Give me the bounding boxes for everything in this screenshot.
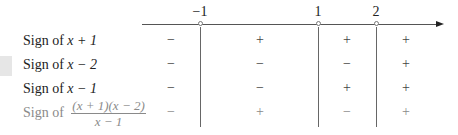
expr: x + 1 (67, 33, 97, 48)
divider-neg1 (200, 27, 201, 127)
divider-1 (318, 27, 319, 127)
axis-point-2 (374, 21, 379, 26)
side-tab (0, 56, 12, 76)
axis-point-1 (316, 21, 321, 26)
tick-label-neg1: −1 (193, 4, 208, 20)
sign-cell: − (343, 104, 351, 120)
sign-cell: + (256, 104, 264, 120)
sign-cell: + (343, 32, 351, 48)
sign-cell: + (402, 80, 410, 96)
sign-cell: − (167, 32, 175, 48)
number-line (142, 24, 438, 25)
sign-cell: + (402, 104, 410, 120)
expr: x − 2 (67, 57, 97, 72)
sign-cell: + (402, 32, 410, 48)
row-label-x-minus-2: Sign of x − 2 (23, 57, 97, 73)
sign-cell: + (402, 56, 410, 72)
arrow-right-icon (436, 21, 444, 27)
expr: x − 1 (67, 81, 97, 96)
tick-label-2: 2 (373, 4, 380, 20)
row-label-x-minus-1: Sign of x − 1 (23, 81, 97, 97)
sign-cell: − (343, 56, 351, 72)
sign-cell: − (256, 56, 264, 72)
numerator: (x + 1)(x − 2) (71, 98, 145, 114)
sign-cell: − (167, 80, 175, 96)
sign-cell: + (256, 32, 264, 48)
axis-point-neg1 (198, 21, 203, 26)
denominator: x − 1 (71, 114, 145, 129)
fraction: (x + 1)(x − 2)x − 1 (71, 98, 145, 129)
tick-label-1: 1 (315, 4, 322, 20)
divider-2 (376, 27, 377, 127)
sign-cell: − (167, 56, 175, 72)
row-label-x-plus-1: Sign of x + 1 (23, 33, 97, 49)
sign-cell: − (256, 80, 264, 96)
sign-cell: − (167, 104, 175, 120)
row-label-quotient: Sign of (x + 1)(x − 2)x − 1 (23, 98, 146, 129)
sign-cell: + (343, 80, 351, 96)
